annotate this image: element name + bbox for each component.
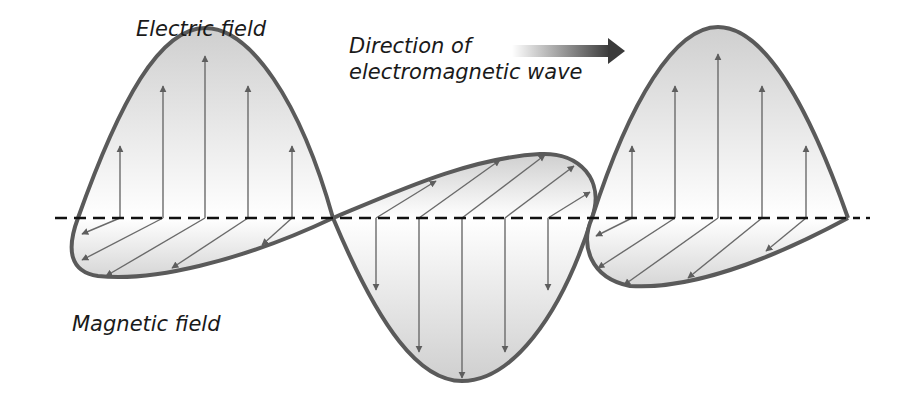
direction-label-line1: Direction of [349, 33, 583, 59]
direction-label: Direction of electromagnetic wave [349, 33, 583, 85]
magnetic-field-label: Magnetic field [72, 311, 221, 337]
direction-label-line2: electromagnetic wave [349, 59, 583, 85]
magnetic-lobe-1 [72, 218, 333, 277]
electric-lobe-3 [592, 27, 848, 218]
magnetic-lobe-3 [587, 218, 848, 286]
em-wave-diagram: Electric field Direction of electromagne… [0, 0, 914, 405]
electric-lobe-1 [78, 28, 333, 218]
magnetic-lobe-2 [333, 154, 594, 218]
electric-field-label: Electric field [136, 16, 266, 42]
